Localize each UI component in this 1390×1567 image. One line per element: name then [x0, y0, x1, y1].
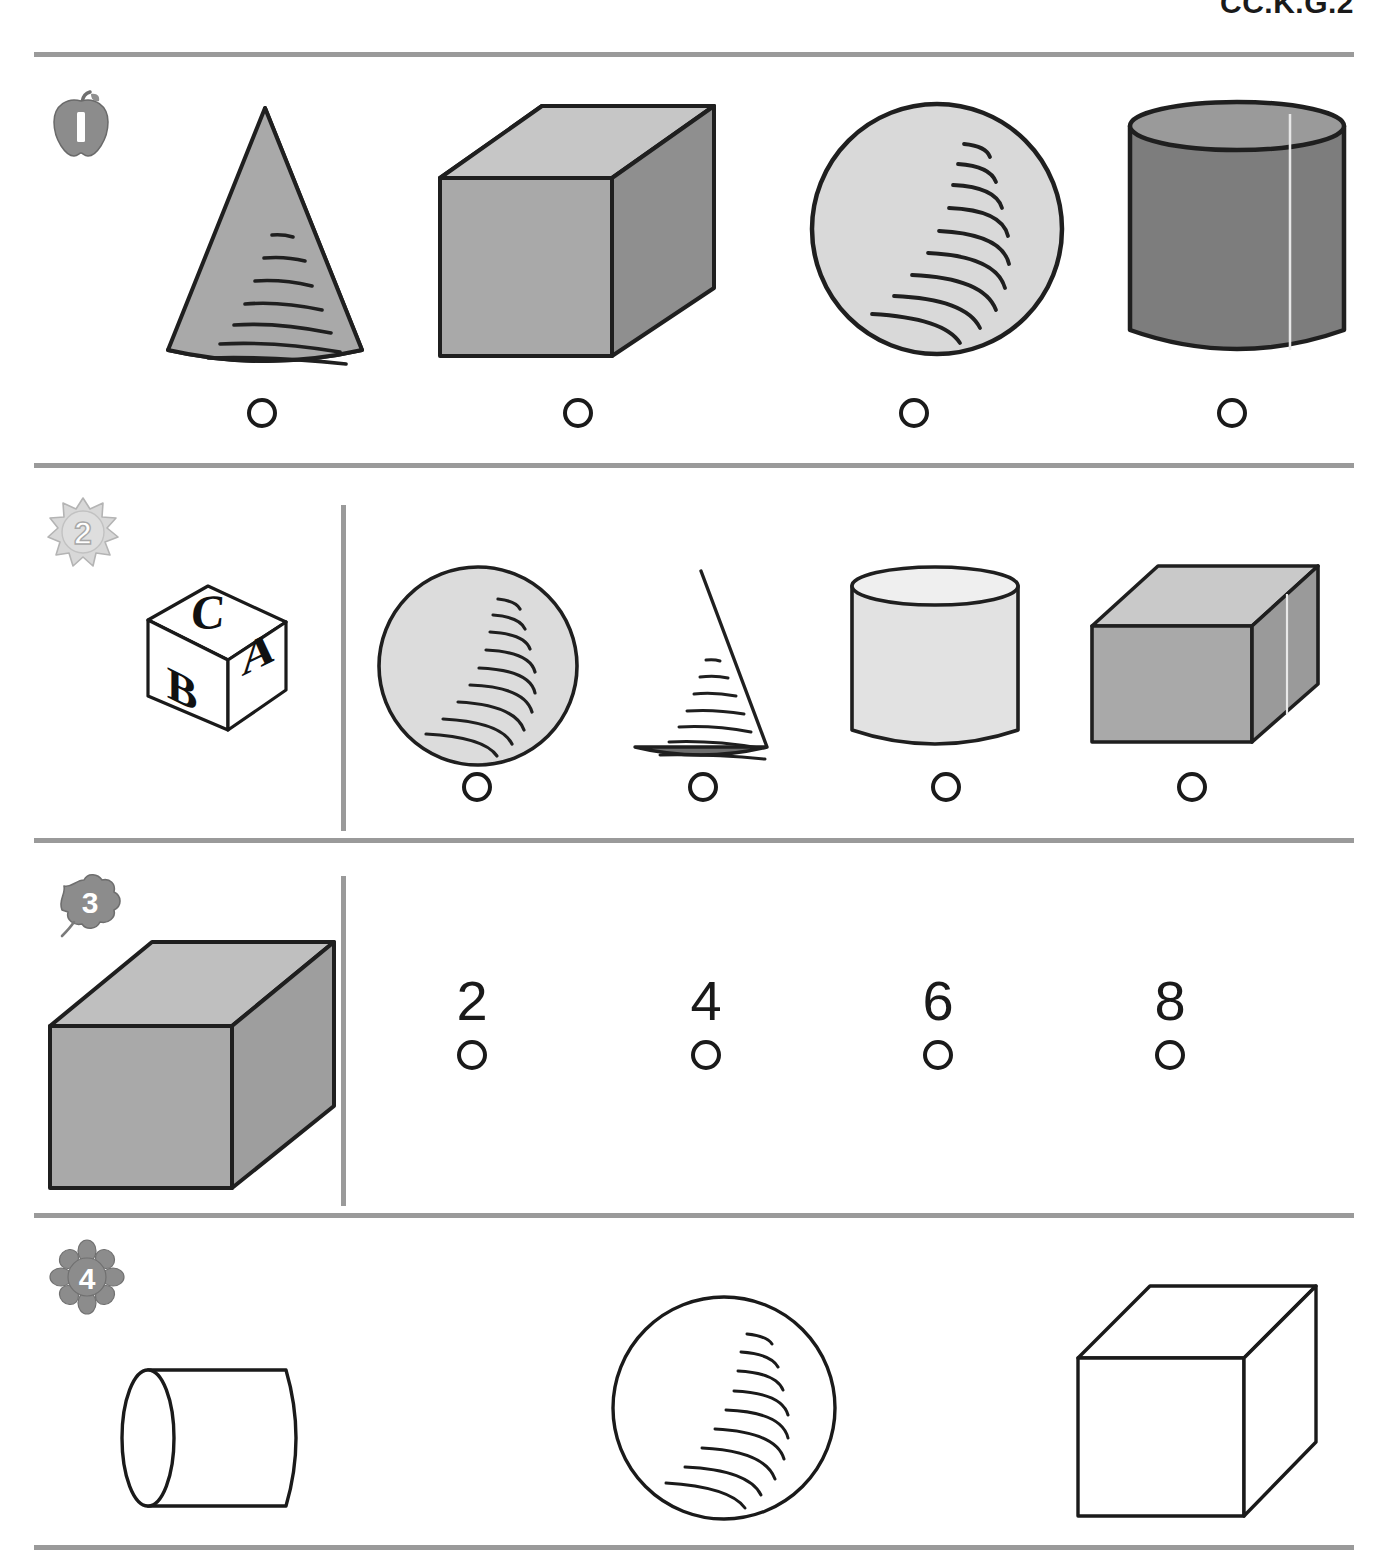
q4-option-2-sphere: [608, 1292, 840, 1528]
q3-option-2-bubble[interactable]: [691, 1040, 721, 1070]
q3-option-2-value: 4: [666, 968, 746, 1033]
q2-option-2-cone: [627, 565, 775, 765]
worksheet-page: CC.K.G.2: [0, 0, 1390, 1567]
flower-icon: 4: [50, 1240, 124, 1314]
section-divider-top: [34, 52, 1354, 57]
q1-option-4-cylinder: [1122, 98, 1352, 370]
q1-option-3-bubble[interactable]: [899, 398, 929, 428]
q3-option-4-value: 8: [1130, 968, 1210, 1033]
q3-option-1-value: 2: [432, 968, 512, 1033]
q3-option-3-bubble[interactable]: [923, 1040, 953, 1070]
q1-option-2-cube: [432, 98, 722, 372]
q3-option-1-bubble[interactable]: [457, 1040, 487, 1070]
standard-code-label: CC.K.G.2: [1220, 0, 1354, 20]
section-divider-2: [34, 838, 1354, 843]
section-divider-bottom: [34, 1545, 1354, 1550]
q4-option-1-cylinder: [110, 1360, 318, 1524]
q2-option-1-bubble[interactable]: [462, 772, 492, 802]
block-letter-top: C: [189, 584, 227, 640]
sun-icon-number: 2: [74, 515, 92, 551]
q1-option-2-bubble[interactable]: [563, 398, 593, 428]
q2-option-3-bubble[interactable]: [931, 772, 961, 802]
q3-prompt-cube: [44, 900, 344, 1204]
sun-icon: 2: [46, 496, 120, 570]
apple-icon: [44, 88, 118, 162]
q2-option-2-bubble[interactable]: [688, 772, 718, 802]
q2-vertical-divider: [341, 505, 346, 831]
q2-option-1-sphere: [374, 562, 582, 774]
q2-prompt-alphabet-block: C B A: [136, 578, 296, 742]
q1-option-4-bubble[interactable]: [1217, 398, 1247, 428]
q1-option-1-bubble[interactable]: [247, 398, 277, 428]
q2-option-4-cuboid: [1086, 556, 1326, 760]
q2-option-4-bubble[interactable]: [1177, 772, 1207, 802]
section-divider-3: [34, 1213, 1354, 1218]
q3-option-4-bubble[interactable]: [1155, 1040, 1185, 1070]
q2-option-3-cylinder: [846, 562, 1024, 766]
section-divider-1: [34, 463, 1354, 468]
q1-option-1-cone: [150, 100, 380, 369]
q1-option-3-sphere: [806, 98, 1068, 364]
flower-icon-number: 4: [79, 1262, 96, 1295]
q4-option-3-cube: [1072, 1276, 1332, 1530]
q3-option-3-value: 6: [898, 968, 978, 1033]
